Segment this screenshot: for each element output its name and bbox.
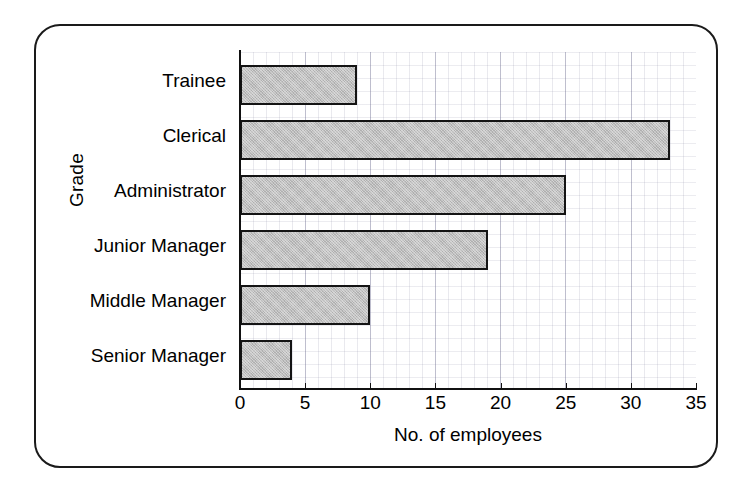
category-label: Administrator bbox=[114, 179, 226, 203]
bar-junior-manager bbox=[240, 230, 488, 270]
x-axis-tick bbox=[240, 383, 241, 389]
x-axis-tick bbox=[501, 383, 502, 389]
category-label: Junior Manager bbox=[94, 234, 226, 258]
bar-administrator bbox=[240, 175, 566, 215]
x-axis-title: No. of employees bbox=[240, 424, 696, 446]
bar-middle-manager bbox=[240, 285, 370, 325]
x-axis-tick-label: 30 bbox=[606, 392, 656, 414]
x-axis-tick-label: 20 bbox=[476, 392, 526, 414]
x-axis-tick-label: 0 bbox=[215, 392, 265, 414]
figure-root: Grade Trainee Clerical Administrator Jun… bbox=[0, 0, 752, 489]
category-axis-labels: Trainee Clerical Administrator Junior Ma… bbox=[62, 55, 232, 388]
x-axis-tick bbox=[370, 383, 371, 389]
x-axis-tick-label: 10 bbox=[345, 392, 395, 414]
x-axis-tick-label: 25 bbox=[541, 392, 591, 414]
plot-area bbox=[240, 52, 696, 388]
category-label: Trainee bbox=[162, 69, 226, 93]
x-axis-tick bbox=[305, 383, 306, 389]
x-axis-tick bbox=[696, 383, 697, 389]
x-axis-tick bbox=[566, 383, 567, 389]
x-axis-line bbox=[239, 388, 697, 390]
bar-senior-manager bbox=[240, 340, 292, 380]
category-label: Senior Manager bbox=[91, 344, 226, 368]
category-label: Clerical bbox=[163, 124, 226, 148]
x-axis-tick-label: 35 bbox=[671, 392, 721, 414]
bar-clerical bbox=[240, 120, 670, 160]
x-axis-tick-label: 15 bbox=[410, 392, 460, 414]
x-axis-tick-label: 5 bbox=[280, 392, 330, 414]
y-axis-line bbox=[239, 50, 241, 390]
x-axis-tick bbox=[435, 383, 436, 389]
category-label: Middle Manager bbox=[90, 289, 226, 313]
bar-trainee bbox=[240, 65, 357, 105]
x-axis-tick bbox=[631, 383, 632, 389]
